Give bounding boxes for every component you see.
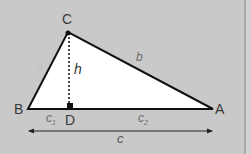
vertex-label-d: D — [65, 112, 75, 128]
right-angle-marker — [67, 103, 73, 109]
vertex-label-b: B — [14, 101, 23, 117]
side-label-b: b — [136, 50, 143, 64]
side-label-c2: c2 — [138, 111, 148, 126]
altitude-label-h: h — [74, 61, 82, 77]
side-label-c: c — [117, 131, 124, 146]
triangle-diagram: C B D A a b h c1 c2 c — [0, 0, 251, 154]
side-label-c1: c1 — [46, 111, 56, 126]
vertex-label-a: A — [215, 101, 225, 117]
triangle-abc — [28, 32, 213, 109]
vertex-c-dot — [66, 31, 71, 36]
side-label-a: a — [37, 59, 43, 71]
vertex-label-c: C — [62, 11, 72, 27]
